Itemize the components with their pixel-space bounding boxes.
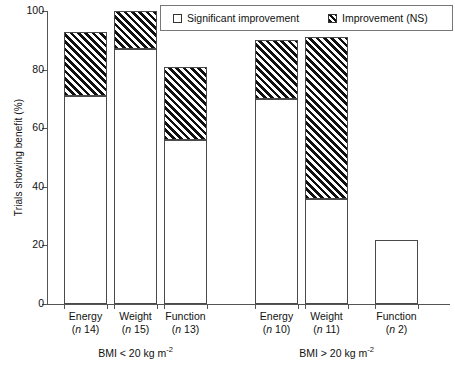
category-n: (n 13) bbox=[150, 323, 221, 336]
y-tick-label: 0 bbox=[38, 297, 44, 309]
bar-function-2 bbox=[164, 67, 207, 304]
bar-energy-0 bbox=[64, 32, 107, 304]
bar-segment-significant bbox=[255, 99, 298, 304]
bar-segment-ns bbox=[64, 32, 107, 96]
legend-label-significant: Significant improvement bbox=[187, 12, 299, 24]
bar-segment-significant bbox=[305, 199, 348, 304]
bar-weight-1 bbox=[114, 11, 157, 304]
x-tick-mark bbox=[375, 304, 376, 309]
bar-weight-4 bbox=[305, 37, 348, 304]
x-tick-mark bbox=[114, 304, 115, 309]
y-tick-label: 60 bbox=[32, 121, 44, 133]
group-label-1: BMI > 20 kg m-2 bbox=[257, 345, 417, 359]
legend-label-ns: Improvement (NS) bbox=[342, 12, 428, 24]
chart-figure: Trials showing benefit (%) 100806040200 … bbox=[0, 0, 455, 372]
category-n: (n 11) bbox=[291, 323, 362, 336]
category-name: Function bbox=[361, 310, 432, 323]
y-axis-title: Trials showing benefit (%) bbox=[13, 58, 24, 258]
bar-segment-significant bbox=[164, 140, 207, 304]
category-name: Function bbox=[150, 310, 221, 323]
y-axis-line bbox=[47, 11, 48, 304]
legend-item-ns: Improvement (NS) bbox=[328, 12, 428, 24]
y-tick-label: 100 bbox=[26, 4, 44, 16]
bar-segment-significant bbox=[114, 49, 157, 304]
x-tick-mark bbox=[207, 304, 208, 309]
category-label-5: Function(n 2) bbox=[361, 310, 432, 335]
bar-segment-ns bbox=[305, 37, 348, 198]
x-tick-mark bbox=[164, 304, 165, 309]
category-n: (n 2) bbox=[361, 323, 432, 336]
group-label-exponent: -2 bbox=[166, 345, 173, 354]
legend: Significant improvement Improvement (NS) bbox=[160, 5, 453, 31]
x-tick-mark bbox=[305, 304, 306, 309]
bar-segment-significant bbox=[375, 240, 418, 304]
bar-segment-ns bbox=[255, 40, 298, 99]
x-tick-mark bbox=[255, 304, 256, 309]
x-tick-mark bbox=[418, 304, 419, 309]
y-tick-label: 40 bbox=[32, 180, 44, 192]
y-tick-label: 20 bbox=[32, 238, 44, 250]
bar-segment-significant bbox=[64, 96, 107, 304]
x-tick-mark bbox=[157, 304, 158, 309]
bar-function-5 bbox=[375, 240, 418, 304]
category-label-4: Weight(n 11) bbox=[291, 310, 362, 335]
open-square-icon bbox=[173, 14, 182, 23]
bar-segment-ns bbox=[164, 67, 207, 140]
bar-segment-ns bbox=[114, 11, 157, 49]
hatched-square-icon bbox=[328, 14, 337, 23]
group-label-0: BMI < 20 kg m-2 bbox=[56, 345, 216, 359]
category-name: Weight bbox=[291, 310, 362, 323]
x-tick-mark bbox=[107, 304, 108, 309]
group-label-exponent: -2 bbox=[367, 345, 374, 354]
x-tick-mark bbox=[348, 304, 349, 309]
plot-area: 100806040200 bbox=[47, 11, 450, 304]
y-tick-label: 80 bbox=[32, 63, 44, 75]
x-tick-mark bbox=[64, 304, 65, 309]
x-tick-mark bbox=[298, 304, 299, 309]
category-label-2: Function(n 13) bbox=[150, 310, 221, 335]
bar-energy-3 bbox=[255, 40, 298, 304]
legend-item-significant: Significant improvement bbox=[173, 12, 299, 24]
